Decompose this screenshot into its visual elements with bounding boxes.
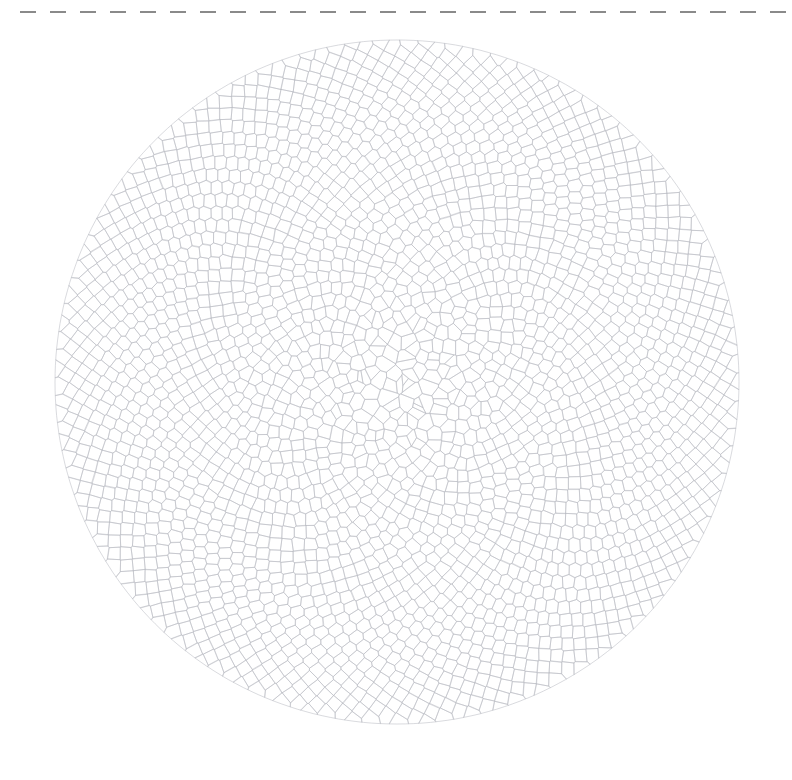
background <box>0 0 792 780</box>
figure-canvas <box>0 0 792 780</box>
phyllotaxis-voronoi-figure <box>0 0 792 780</box>
